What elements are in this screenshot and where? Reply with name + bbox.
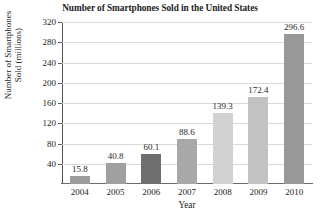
bar-value-label: 60.1	[143, 142, 159, 152]
x-tick-label: 2007	[178, 187, 196, 197]
bar	[70, 176, 90, 184]
bar-value-label: 40.8	[108, 151, 124, 161]
bar	[213, 113, 233, 184]
chart-title: Number of Smartphones Sold in the United…	[0, 3, 320, 13]
bar-slot: 60.12006	[133, 22, 169, 184]
y-tick-label: 80	[47, 139, 56, 149]
bar-value-label: 139.3	[213, 101, 233, 111]
bar-value-label: 15.8	[72, 164, 88, 174]
bar	[284, 34, 304, 184]
bar-slot: 172.42009	[241, 22, 277, 184]
y-tick-label: 240	[43, 58, 57, 68]
x-tick-label: 2006	[142, 187, 160, 197]
y-axis-label-text: Number of Smartphones Sold (millions)	[3, 11, 24, 99]
bar-slot: 139.32008	[205, 22, 241, 184]
bar	[141, 154, 161, 184]
y-tick-label: 320	[43, 17, 57, 27]
y-tick-label: 200	[43, 78, 57, 88]
x-tick-label: 2004	[71, 187, 89, 197]
bar-value-label: 88.6	[179, 127, 195, 137]
bar-chart-figure: Number of Smartphones Sold in the United…	[0, 0, 320, 224]
bar	[177, 139, 197, 184]
bar-value-label: 296.6	[284, 22, 304, 32]
x-tick-label: 2009	[249, 187, 267, 197]
x-axis-label: Year	[62, 200, 312, 210]
bar-value-label: 172.4	[248, 85, 268, 95]
x-tick-label: 2005	[107, 187, 125, 197]
plot-area: 4080120160200240280320 15.8200440.820056…	[62, 22, 312, 184]
x-tick-label: 2008	[214, 187, 232, 197]
bar-slot: 296.62010	[276, 22, 312, 184]
bars-group: 15.8200440.8200560.1200688.62007139.3200…	[62, 22, 312, 184]
bar-slot: 15.82004	[62, 22, 98, 184]
y-tick-label: 40	[47, 159, 56, 169]
y-tick-label: 160	[43, 98, 57, 108]
y-tick-label: 120	[43, 118, 57, 128]
y-tick-label: 280	[43, 37, 57, 47]
y-axis-label: Number of Smartphones Sold (millions)	[0, 0, 26, 120]
bar	[106, 163, 126, 184]
bar-slot: 40.82005	[98, 22, 134, 184]
x-tick-label: 2010	[285, 187, 303, 197]
bar-slot: 88.62007	[169, 22, 205, 184]
bar	[248, 97, 268, 184]
